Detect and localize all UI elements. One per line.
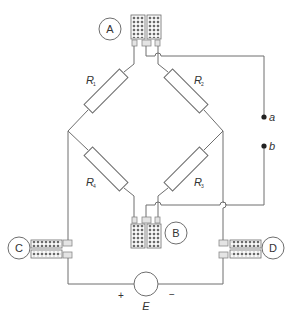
bridge-diagram: A B C D [0,0,296,322]
gauge-d-tab-1 [219,240,228,246]
terminal-a: a [261,111,275,123]
r3-subscript: 3 [201,183,204,189]
terminal-b: b [261,140,275,152]
strain-gauge-a [131,15,161,46]
gauge-a-label: A [106,23,114,35]
terminal-a-label: a [269,111,275,123]
strain-gauge-d [219,240,261,258]
gauge-c-label: C [15,242,23,254]
resistor-r1: R 1 [84,69,128,113]
gauge-d-label: D [269,242,277,254]
resistor-r4: R 4 [84,147,128,191]
voltage-source-e: + − E [118,272,175,312]
gauge-a-tab-3 [155,40,160,46]
gauge-b-tab-2 [142,217,151,223]
r1-subscript: 1 [93,81,96,87]
source-plus-label: + [118,290,124,301]
gauge-d-callout: D [262,237,284,259]
r4-subscript: 4 [93,183,96,189]
r2-subscript: 2 [201,81,204,87]
gauge-b-tab-3 [155,217,160,223]
terminal-b-label: b [269,140,275,152]
source-label: E [142,300,150,312]
resistor-r3: R 3 [164,147,208,191]
gauge-a-tab-1 [132,40,137,46]
gauge-c-tab-1 [63,240,72,246]
gauge-b-callout: B [165,222,187,244]
gauge-a-tab-2 [142,40,151,46]
gauge-b-tab-1 [132,217,137,223]
strain-gauge-c [31,240,72,258]
source-minus-label: − [169,289,175,300]
gauge-b-label: B [172,227,179,239]
gauge-c-callout: C [8,237,30,259]
gauge-d-tab-2 [219,252,228,258]
resistor-r2: R 2 [164,69,208,113]
gauge-a-callout: A [99,18,121,40]
gauge-c-tab-2 [63,252,72,258]
strain-gauge-b [131,217,161,248]
